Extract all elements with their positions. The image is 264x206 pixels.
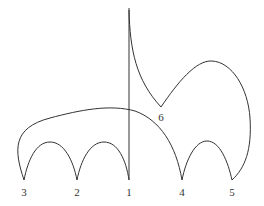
loop-6-5: [161, 61, 250, 180]
node-label-2: 2: [74, 186, 80, 198]
node-label-5: 5: [229, 186, 235, 198]
diagram-canvas: 3 2 1 4 5 6: [0, 0, 264, 206]
arch-3-2: [24, 142, 77, 180]
node-label-6: 6: [158, 111, 164, 123]
node-label-3: 3: [21, 186, 27, 198]
node-label-4: 4: [179, 186, 185, 198]
cusp-curve-top-6: [129, 10, 161, 107]
node-label-1: 1: [126, 186, 132, 198]
arch-4-5: [182, 141, 232, 180]
arch-2-1: [77, 142, 129, 180]
